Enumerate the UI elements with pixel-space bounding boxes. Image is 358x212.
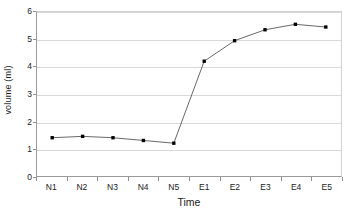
x-axis-tick-label: N3 [107,183,118,192]
data-point-marker [233,39,236,42]
data-point-marker [51,136,54,139]
x-axis-tick-mark [36,177,37,181]
data-point-marker [324,25,327,28]
x-axis-tick-mark [128,177,129,181]
data-point-marker [203,60,206,63]
x-axis-tick-mark [281,177,282,181]
data-point-marker [263,28,266,31]
series-line [52,24,326,143]
data-point-marker [81,135,84,138]
y-axis-title-label: volume (ml) [3,65,13,114]
data-point-marker [111,136,114,139]
x-axis-tick-mark [342,177,343,181]
x-axis-tick-mark [250,177,251,181]
x-axis-tick-mark [311,177,312,181]
x-axis-tick-label: N4 [138,183,149,192]
x-axis-tick-label: E2 [230,183,240,192]
x-axis-tick-label: E1 [199,183,209,192]
x-axis-tick-label: N2 [76,183,87,192]
x-axis-tick-labels: N1N2N3N4N5E1E2E3E4E5 [36,183,342,195]
x-axis-tick-mark [97,177,98,181]
plot-area [36,11,342,177]
x-axis-tick-label: E3 [260,183,270,192]
x-axis-tick-label: N1 [46,183,57,192]
data-series-volume [37,12,341,176]
x-axis-tick-label: N5 [168,183,179,192]
data-point-marker [172,142,175,145]
y-axis-title: volume (ml) [0,0,16,180]
data-point-marker [142,139,145,142]
x-axis-title: Time [36,196,342,208]
x-axis-tick-label: E5 [321,183,331,192]
x-axis-tick-mark [158,177,159,181]
data-point-marker [294,23,297,26]
x-axis-tick-mark [189,177,190,181]
line-chart-figure: volume (ml) 0123456 N1N2N3N4N5E1E2E3E4E5… [0,0,358,212]
x-axis-tick-label: E4 [291,183,301,192]
x-axis-tick-mark [67,177,68,181]
x-axis-tick-mark [220,177,221,181]
y-axis-tick-labels: 0123456 [18,11,32,177]
